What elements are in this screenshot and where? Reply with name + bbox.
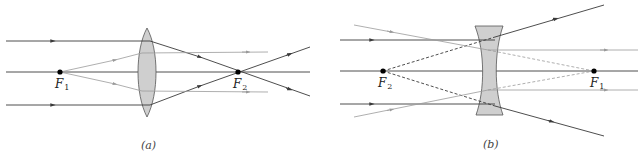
- ray-b-bottom-virtual: [383, 71, 495, 106]
- focal-label-f2-a: F2: [232, 77, 247, 92]
- ray-top-refracted: [150, 41, 200, 57]
- ray-light-upper-seg: [115, 52, 268, 60]
- panel-a: F1 F2 (a): [6, 28, 310, 152]
- ray-b-top-diverged: [495, 5, 604, 37]
- ray-b-light-lower: [354, 90, 488, 117]
- caption-a: (a): [141, 139, 156, 152]
- ray-light-upper: [60, 60, 115, 72]
- lens-diagram: F1 F2 (a) F2 F1: [0, 0, 640, 158]
- focal-label-f1-b: F1: [589, 76, 604, 91]
- focal-point-f2-b: [380, 68, 385, 73]
- ray-b-light-upper-virtual: [488, 50, 594, 71]
- panel-b: F2 F1 (b): [340, 5, 638, 151]
- ray-bottom-refracted-seg: [200, 47, 310, 86]
- ray-b-bottom-diverged-arrow: [548, 121, 552, 122]
- ray-b-light-upper-arrow: [387, 31, 392, 32]
- ray-top-refracted-seg: [200, 57, 310, 96]
- ray-b-top-diverged-arrow: [552, 19, 556, 20]
- ray-b-light-upper: [354, 25, 488, 50]
- focal-point-f2-a: [235, 69, 240, 74]
- ray-b-top-virtual: [383, 37, 495, 71]
- ray-bottom-refracted: [150, 86, 200, 105]
- focal-label-f2-b: F2: [377, 76, 392, 91]
- focal-label-f1-a: F1: [54, 77, 69, 92]
- ray-b-light-lower-virtual: [488, 71, 594, 90]
- focal-point-f1-b: [591, 68, 596, 73]
- focal-point-f1-a: [57, 69, 62, 74]
- concave-lens: [475, 26, 503, 115]
- ray-b-light-lower-arrow: [387, 110, 392, 111]
- caption-b: (b): [483, 138, 499, 151]
